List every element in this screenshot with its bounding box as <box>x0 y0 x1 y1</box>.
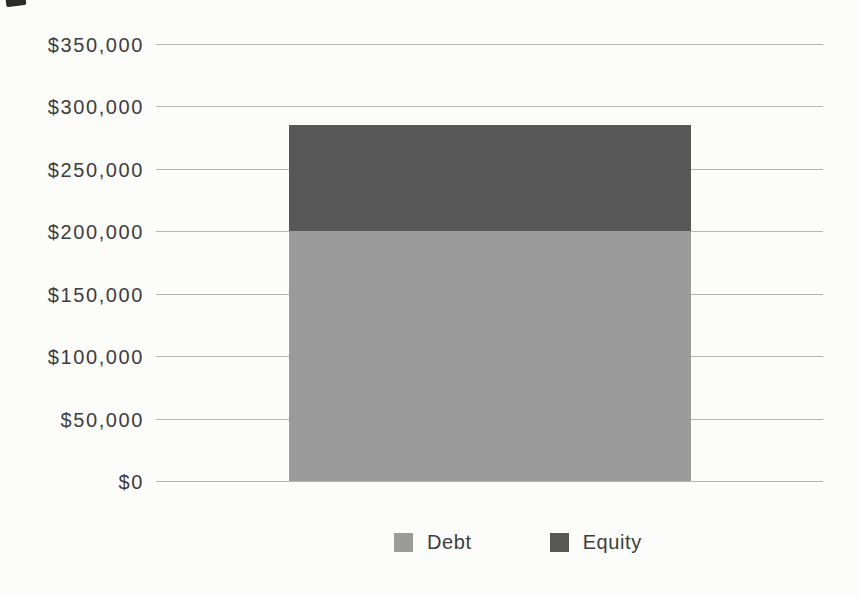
y-tick-label: $150,000 <box>0 283 144 306</box>
y-tick-label: $300,000 <box>0 96 144 119</box>
y-tick-label: $200,000 <box>0 221 144 244</box>
legend-item-equity: Equity <box>550 533 642 552</box>
y-tick-label: $0 <box>0 471 144 494</box>
y-tick-label: $250,000 <box>0 158 144 181</box>
y-tick-label: $350,000 <box>0 33 144 56</box>
bar-segment-debt <box>289 231 691 481</box>
y-gridline <box>156 481 823 482</box>
legend-label: Debt <box>427 533 472 552</box>
legend-swatch-icon <box>550 533 569 552</box>
y-tick-label: $50,000 <box>0 408 144 431</box>
bar-segment-equity <box>289 125 691 231</box>
y-gridline <box>156 44 823 45</box>
legend-swatch-icon <box>394 533 413 552</box>
chart-legend: DebtEquity <box>394 533 642 552</box>
legend-item-debt: Debt <box>394 533 472 552</box>
y-tick-label: $100,000 <box>0 346 144 369</box>
plot-area: $0$50,000$100,000$150,000$200,000$250,00… <box>0 0 859 596</box>
y-gridline <box>156 106 823 107</box>
legend-label: Equity <box>583 533 642 552</box>
chart-page: $0$50,000$100,000$150,000$200,000$250,00… <box>0 0 859 596</box>
